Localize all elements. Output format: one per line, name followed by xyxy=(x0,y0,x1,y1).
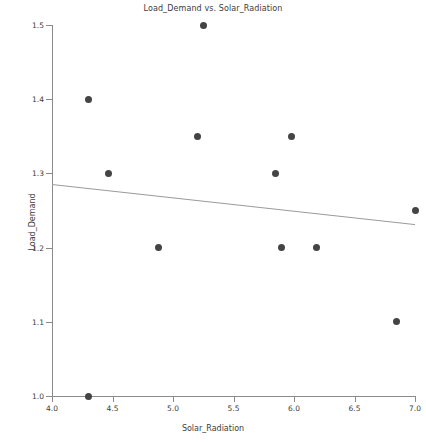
x-tick-mark xyxy=(52,396,53,402)
scatter-point xyxy=(200,22,207,29)
scatter-point xyxy=(412,207,419,214)
x-tick-label: 4.0 xyxy=(32,404,72,413)
x-tick-label: 6.5 xyxy=(335,404,375,413)
scatter-point xyxy=(85,96,92,103)
x-tick-label: 7.0 xyxy=(395,404,426,413)
x-tick-mark xyxy=(173,396,174,402)
x-tick-mark xyxy=(415,396,416,402)
scatter-plot-figure: Load_Demand vs. Solar_Radiation 1.01.11.… xyxy=(0,0,426,443)
y-axis-label: Load_Demand xyxy=(28,193,37,250)
y-axis-line xyxy=(52,25,53,396)
y-tick-label: 1.3 xyxy=(4,169,44,178)
y-tick-label: 1.1 xyxy=(4,317,44,326)
scatter-point xyxy=(393,318,400,325)
y-tick-mark xyxy=(46,99,52,100)
y-tick-mark xyxy=(46,248,52,249)
scatter-point xyxy=(313,244,320,251)
x-tick-mark xyxy=(294,396,295,402)
y-tick-mark xyxy=(46,173,52,174)
scatter-point xyxy=(194,133,201,140)
y-tick-mark xyxy=(46,322,52,323)
scatter-point xyxy=(288,133,295,140)
scatter-point xyxy=(278,244,285,251)
y-tick-label: 1.4 xyxy=(4,95,44,104)
scatter-point xyxy=(105,170,112,177)
x-tick-mark xyxy=(113,396,114,402)
x-tick-label: 5.5 xyxy=(214,404,254,413)
y-tick-mark xyxy=(46,25,52,26)
x-tick-label: 5.0 xyxy=(153,404,193,413)
scatter-point xyxy=(85,393,92,400)
x-axis-label: Solar_Radiation xyxy=(0,424,426,433)
x-tick-label: 4.5 xyxy=(93,404,133,413)
x-tick-label: 6.0 xyxy=(274,404,314,413)
y-tick-label: 1.2 xyxy=(4,243,44,252)
x-tick-mark xyxy=(355,396,356,402)
page-title: Load_Demand vs. Solar_Radiation xyxy=(0,4,426,13)
y-tick-label: 1.0 xyxy=(4,392,44,401)
x-tick-mark xyxy=(234,396,235,402)
scatter-point xyxy=(272,170,279,177)
scatter-point xyxy=(155,244,162,251)
y-tick-label: 1.5 xyxy=(4,21,44,30)
regression-trendline xyxy=(0,0,426,443)
